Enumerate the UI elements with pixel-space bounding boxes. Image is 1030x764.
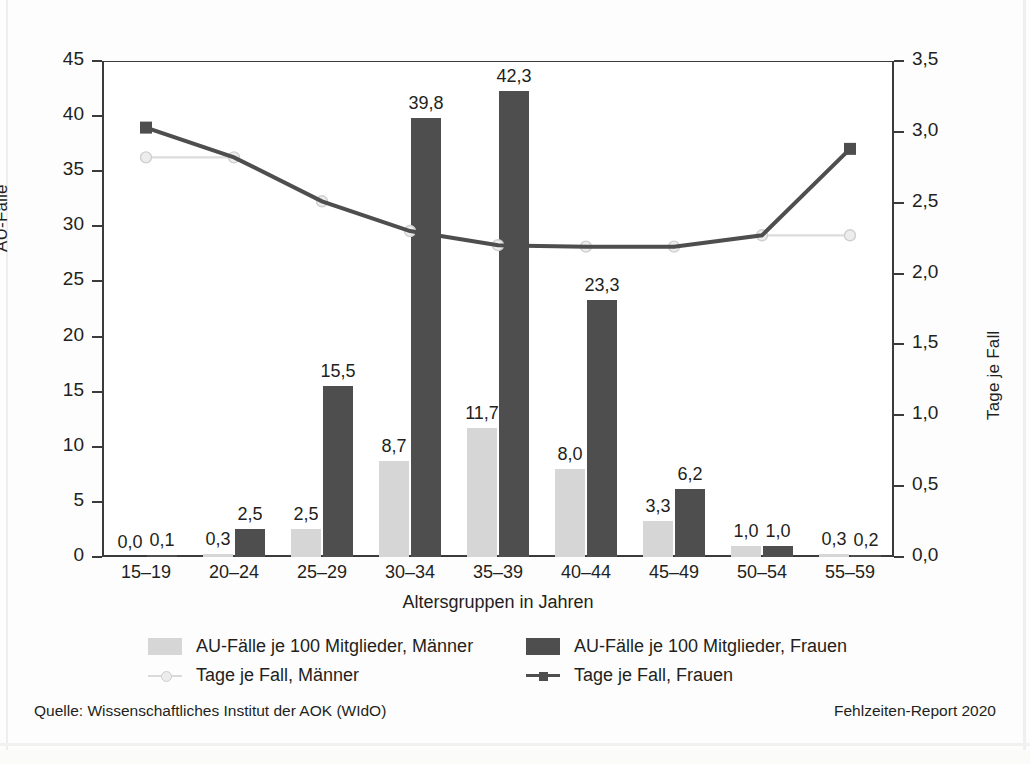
bar-male-value-label: 0,3	[194, 529, 242, 550]
y-right-tick-label: 0,5	[912, 473, 982, 495]
y-right-tick-label: 3,5	[912, 48, 982, 70]
y-right-tick-label: 2,5	[912, 190, 982, 212]
y-left-tick-mark	[92, 336, 102, 338]
legend-row-1: AU-Fälle je 100 Mitglieder, Männer AU-Fä…	[148, 636, 908, 657]
legend-label-au-faelle-frauen: AU-Fälle je 100 Mitglieder, Frauen	[574, 636, 847, 657]
bar-male	[379, 461, 409, 557]
bar-male	[203, 554, 233, 557]
bar-female	[499, 91, 529, 557]
x-axis-category-label: 20–24	[190, 562, 278, 583]
x-axis-category-label: 55–59	[806, 562, 894, 583]
y-left-tick-label: 15	[12, 379, 84, 401]
bar-male	[291, 529, 321, 557]
y-left-tick-label: 30	[12, 213, 84, 235]
y-right-tick-mark	[894, 556, 904, 558]
y-left-tick-mark	[92, 446, 102, 448]
legend-swatch-box-dark-icon	[526, 638, 560, 655]
y-right-tick-mark	[894, 60, 904, 62]
x-axis-category-label: 50–54	[718, 562, 806, 583]
y-left-tick-mark	[92, 501, 102, 503]
bar-male-value-label: 8,7	[370, 436, 418, 457]
report-note: Fehlzeiten-Report 2020	[834, 702, 996, 720]
y-left-tick-mark	[92, 225, 102, 227]
y-left-tick-mark	[92, 391, 102, 393]
bar-male-value-label: 11,7	[458, 403, 506, 424]
plot-frame	[102, 61, 894, 557]
bar-female-value-label: 39,8	[402, 93, 450, 114]
bar-male	[819, 554, 849, 557]
y-left-tick-mark	[92, 280, 102, 282]
y-right-tick-label: 1,0	[912, 402, 982, 424]
bar-female-value-label: 23,3	[578, 275, 626, 296]
legend-swatch-line-dark-icon	[526, 668, 560, 684]
y-left-tick-mark	[92, 115, 102, 117]
y-right-tick-mark	[894, 273, 904, 275]
x-axis-category-label: 35–39	[454, 562, 542, 583]
y-right-tick-mark	[894, 343, 904, 345]
y-left-tick-label: 40	[12, 103, 84, 125]
x-axis-title: Altersgruppen in Jahren	[102, 592, 894, 613]
x-axis-category-label: 30–34	[366, 562, 454, 583]
bar-male-value-label: 3,3	[634, 496, 682, 517]
legend-item-au-faelle-maenner[interactable]: AU-Fälle je 100 Mitglieder, Männer	[148, 636, 526, 657]
bar-male	[555, 469, 585, 557]
y-right-tick-label: 0,0	[912, 544, 982, 566]
y-right-tick-mark	[894, 202, 904, 204]
y-left-tick-label: 25	[12, 268, 84, 290]
y-left-tick-label: 45	[12, 48, 84, 70]
y-left-tick-label: 35	[12, 158, 84, 180]
x-axis-category-label: 45–49	[630, 562, 718, 583]
bar-female-value-label: 0,2	[842, 530, 890, 551]
bar-male	[731, 546, 761, 557]
legend-item-tage-je-fall-frauen[interactable]: Tage je Fall, Frauen	[526, 665, 904, 686]
legend-label-tage-je-fall-maenner: Tage je Fall, Männer	[196, 665, 359, 686]
y-right-tick-label: 3,0	[912, 119, 982, 141]
bar-female	[411, 118, 441, 557]
bar-female	[587, 300, 617, 557]
bar-female	[763, 546, 793, 557]
bar-female-value-label: 6,2	[666, 464, 714, 485]
y-left-tick-label: 10	[12, 434, 84, 456]
x-axis-category-label: 40–44	[542, 562, 630, 583]
legend-label-au-faelle-maenner: AU-Fälle je 100 Mitglieder, Männer	[196, 636, 473, 657]
bar-female-value-label: 42,3	[490, 66, 538, 87]
y-right-tick-mark	[894, 414, 904, 416]
y-left-tick-mark	[92, 60, 102, 62]
bar-female	[851, 555, 881, 557]
y-right-tick-mark	[894, 485, 904, 487]
bar-male	[467, 428, 497, 557]
y-right-tick-label: 2,0	[912, 261, 982, 283]
y-left-tick-mark	[92, 556, 102, 558]
figure-footer: Quelle: Wissenschaftliches Institut der …	[34, 702, 996, 720]
x-axis-category-label: 15–19	[102, 562, 190, 583]
y-axis-left-title: AU-Fälle	[0, 184, 12, 252]
y-right-tick-mark	[894, 131, 904, 133]
figure-page: AU-Fälle Tage je Fall Altersgruppen in J…	[0, 0, 1030, 764]
y-left-tick-label: 5	[12, 489, 84, 511]
y-right-tick-label: 1,5	[912, 331, 982, 353]
bar-female-value-label: 15,5	[314, 361, 362, 382]
y-left-tick-mark	[92, 170, 102, 172]
bar-female	[323, 386, 353, 557]
legend-row-2: Tage je Fall, Männer Tage je Fall, Fraue…	[148, 665, 908, 686]
y-left-tick-label: 20	[12, 324, 84, 346]
legend-label-tage-je-fall-frauen: Tage je Fall, Frauen	[574, 665, 733, 686]
source-note: Quelle: Wissenschaftliches Institut der …	[34, 702, 386, 720]
legend-swatch-box-light-icon	[148, 638, 182, 655]
legend-swatch-line-light-icon	[148, 668, 182, 684]
bar-male-value-label: 8,0	[546, 444, 594, 465]
bar-female	[147, 555, 177, 557]
bar-male	[643, 521, 673, 557]
bar-female-value-label: 2,5	[226, 504, 274, 525]
x-axis-category-label: 25–29	[278, 562, 366, 583]
chart-legend: AU-Fälle je 100 Mitglieder, Männer AU-Fä…	[148, 636, 908, 694]
bar-female-value-label: 0,1	[138, 530, 186, 551]
bar-female-value-label: 1,0	[754, 521, 802, 542]
y-axis-right-title: Tage je Fall	[984, 331, 1004, 420]
legend-item-tage-je-fall-maenner[interactable]: Tage je Fall, Männer	[148, 665, 526, 686]
y-left-tick-label: 0	[12, 544, 84, 566]
legend-item-au-faelle-frauen[interactable]: AU-Fälle je 100 Mitglieder, Frauen	[526, 636, 904, 657]
bar-male-value-label: 2,5	[282, 504, 330, 525]
